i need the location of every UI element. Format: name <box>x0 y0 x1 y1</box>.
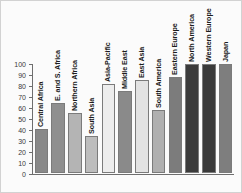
bar-category-label: Eastern Europe <box>172 24 179 76</box>
chart-figure: 0102030405060708090100 Central AfricaE. … <box>0 0 242 193</box>
bar[interactable] <box>68 113 81 174</box>
bar[interactable] <box>85 136 98 173</box>
bar-slot: Central Africa <box>35 9 48 174</box>
plot-area: 0102030405060708090100 Central AfricaE. … <box>32 9 234 174</box>
y-axis-tick-label: 30 <box>4 138 26 145</box>
y-axis-tick-label: 40 <box>4 127 26 134</box>
y-axis-tick-label: 80 <box>4 83 26 90</box>
bar-category-label: Japan <box>222 42 229 62</box>
y-axis-tick-label: 0 <box>4 171 26 178</box>
bar-slot: North America <box>185 9 198 174</box>
bar-slot: Japan <box>219 9 232 174</box>
y-axis-tick-label: 50 <box>4 116 26 123</box>
y-axis-tick-label: 20 <box>4 149 26 156</box>
bar-slot: E. and S. Africa <box>51 9 64 174</box>
bar-category-label: South America <box>155 59 162 108</box>
y-axis-tick-label: 10 <box>4 160 26 167</box>
bar-category-label: Northern Africa <box>71 60 78 111</box>
bar-slot: East Asia <box>135 9 148 174</box>
bar-category-label: East Asia <box>138 46 145 77</box>
bar-category-label: Western Europe <box>205 9 212 63</box>
bar-category-label: North America <box>189 14 196 62</box>
y-axis-tick-label: 60 <box>4 105 26 112</box>
bar[interactable] <box>202 64 215 173</box>
bar-category-label: South Asia <box>88 97 95 133</box>
bar[interactable] <box>35 129 48 173</box>
bar-slot: Asia-Pacific <box>102 9 115 174</box>
y-axis-tick-label: 90 <box>4 72 26 79</box>
bar[interactable] <box>135 80 148 174</box>
bar[interactable] <box>185 64 198 173</box>
bar-slot: Eastern Europe <box>169 9 182 174</box>
bar[interactable] <box>152 110 165 173</box>
bar-slot: South Asia <box>85 9 98 174</box>
bar-slot: Northern Africa <box>68 9 81 174</box>
bar-category-label: Central Africa <box>38 82 45 127</box>
bar[interactable] <box>102 84 115 173</box>
bar-slot: Middle East <box>118 9 131 174</box>
bar-slot: South America <box>152 9 165 174</box>
y-axis-tick-label: 70 <box>4 94 26 101</box>
bar-group: Central AfricaE. and S. AfricaNorthern A… <box>33 9 234 175</box>
bar-category-label: Middle East <box>122 50 129 89</box>
bar[interactable] <box>219 64 232 173</box>
bar-slot: Western Europe <box>202 9 215 174</box>
y-axis-tick-label: 100 <box>4 61 26 68</box>
bar-category-label: E. and S. Africa <box>55 50 62 101</box>
bar[interactable] <box>169 77 182 173</box>
bar[interactable] <box>118 91 131 174</box>
bar[interactable] <box>51 103 64 173</box>
bar-category-label: Asia-Pacific <box>105 42 112 82</box>
